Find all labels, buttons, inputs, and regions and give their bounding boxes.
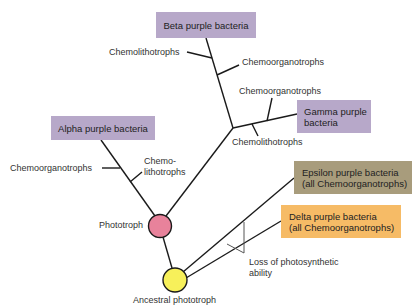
loss-of-photosynthetic-ability-label: Loss of photosynthetic ability [249, 257, 339, 279]
phototroph-node [149, 215, 172, 238]
alpha-label: Alpha purple bacteria [58, 123, 148, 134]
alpha-chemolithotrophs-label: Chemo- lithotrophs [144, 156, 186, 178]
delta-label-line2: (all Chemoorganotrophs) [289, 222, 394, 233]
beta-label: Beta purple bacteria [163, 20, 248, 31]
epsilon-label-line2: (all Chemoorganotrophs) [302, 178, 407, 189]
alpha-purple-bacteria-box: Alpha purple bacteria [51, 116, 155, 140]
phylogenetic-tree-lines [0, 0, 416, 306]
gamma-purple-bacteria-box: Gamma purple bacteria [297, 100, 371, 133]
ancestral-phototroph-label: Ancestral phototroph [133, 295, 216, 306]
loss-line2: ability [249, 268, 339, 279]
beta-chemoorganotrophs-label: Chemoorganotrophs [242, 57, 324, 68]
gamma-label-line2: bacteria [304, 117, 367, 128]
epsilon-purple-bacteria-box: Epsilon purple bacteria (all Chemoorgano… [294, 161, 412, 194]
epsilon-label-line1: Epsilon purple bacteria [302, 167, 407, 178]
alpha-chemolithotrophs-line2: lithotrophs [144, 167, 186, 178]
beta-purple-bacteria-box: Beta purple bacteria [156, 12, 256, 38]
gamma-chemoorganotrophs-label: Chemoorganotrophs [239, 86, 321, 97]
delta-purple-bacteria-box: Delta purple bacteria (all Chemoorganotr… [281, 205, 401, 238]
alpha-chemoorganotrophs-label: Chemoorganotrophs [10, 163, 92, 174]
beta-chemolithotrophs-label: Chemolithotrophs [109, 47, 180, 58]
ancestral-phototroph-node [163, 268, 187, 292]
delta-label-line1: Delta purple bacteria [289, 211, 394, 222]
gamma-label-line1: Gamma purple [304, 106, 367, 117]
alpha-chemolithotrophs-line1: Chemo- [144, 156, 186, 167]
loss-line1: Loss of photosynthetic [249, 257, 339, 268]
phototroph-label: Phototroph [99, 220, 143, 231]
gamma-chemolithotrophs-label: Chemolithotrophs [232, 137, 303, 148]
